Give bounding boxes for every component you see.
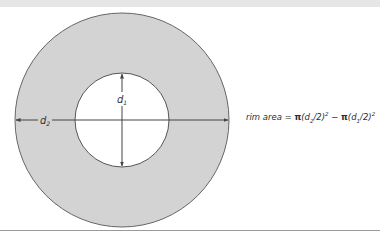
footer-rule xyxy=(0,230,380,231)
rim-area-formula: rim area = π(d2/2)2 − π(d1/2)2 xyxy=(246,111,375,124)
